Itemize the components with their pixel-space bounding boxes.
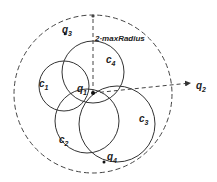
arrow-line-to-q2 (93, 83, 190, 93)
label-q1: q1 (77, 83, 87, 96)
label-c4: c4 (106, 54, 116, 67)
diagram-canvas: 2·maxRadius q3 c4 c1 q1 q2 c3 c2 q4 (0, 0, 217, 182)
label-radius: 2·maxRadius (94, 34, 145, 43)
label-q3: q3 (62, 24, 72, 37)
label-c3: c3 (139, 113, 149, 126)
label-q2: q2 (196, 80, 206, 93)
point-q1 (91, 91, 95, 95)
radius-tip-marker (91, 14, 94, 17)
point-q4 (103, 161, 106, 164)
label-c1: c1 (39, 78, 49, 91)
label-c2: c2 (59, 134, 69, 147)
